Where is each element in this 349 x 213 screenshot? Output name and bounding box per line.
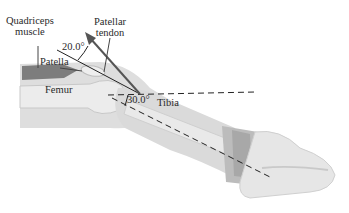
- quadriceps-label: Quadriceps muscle: [6, 15, 54, 37]
- patellar-tendon-label: Patellar tendon: [94, 16, 126, 38]
- patella-label: Patella: [40, 56, 69, 67]
- angle-20-label: 20.0°: [62, 41, 85, 52]
- quadriceps-label-line1: Quadriceps: [6, 15, 54, 26]
- femur-label: Femur: [45, 84, 72, 95]
- shoe: [240, 131, 335, 198]
- patellar-tendon-label-line2: tendon: [94, 27, 126, 38]
- angle-30-label: 30.0°: [127, 94, 150, 105]
- quadriceps-label-line2: muscle: [6, 26, 54, 37]
- patellar-tendon-label-line1: Patellar: [94, 16, 126, 27]
- tibia-label: Tibia: [157, 97, 179, 108]
